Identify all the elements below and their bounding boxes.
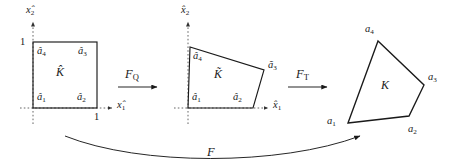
vertex-label-a2-sub: 2 (413, 128, 417, 136)
map-label-fq: FQ (125, 68, 139, 82)
tick-label-x-one: 1 (94, 112, 99, 123)
panel-reference-element (20, 22, 112, 124)
map-label-fq-text: F (125, 67, 133, 81)
map-label-fq-sub: Q (133, 72, 139, 82)
vertex-label-a4: a4 (365, 24, 374, 36)
map-label-ft: FT (296, 68, 309, 82)
axis-label-x1-intermediate: x̂1 (273, 100, 281, 112)
vertex-label-a1: a1 (327, 116, 336, 128)
axis-label-x2-intermediate: x̂2 (181, 5, 189, 17)
vertex-label-a3-sub: 3 (433, 76, 437, 84)
region-label-k-text: K (381, 78, 389, 92)
vertex-label-a2: a2 (408, 124, 417, 136)
vertex-label-a3-hat: â3 (78, 46, 87, 58)
axis-label-x1-intermediate-sub: 1 (278, 104, 282, 112)
axis-label-x2-reference-text: x (26, 5, 31, 16)
map-label-ft-sub: T (304, 72, 309, 82)
vertex-label-a4-hat: â4 (37, 46, 46, 58)
vertex-label-a3: a3 (428, 72, 437, 84)
vertex-label-a2-tilde: â2 (233, 92, 242, 104)
axis-label-x2-intermediate-sub: 2 (186, 9, 190, 17)
vertex-label-a4-hat-sub: 4 (42, 50, 46, 58)
vertex-label-a2-hat: â2 (77, 92, 86, 104)
tick-label-y-one: 1 (20, 37, 25, 48)
axis-label-x2-reference-sub: 2 (31, 9, 35, 17)
vertex-label-a3-hat-sub: 3 (83, 50, 87, 58)
vertex-label-a3-tilde-sub: 3 (273, 64, 277, 72)
region-label-k-hat-text: K (56, 65, 64, 79)
vertex-label-a1-tilde-sub: 1 (197, 96, 201, 104)
fem-mapping-diagram: x̂2 x̂1 1 1 K̂ â1 â2 â3 â4 x̂2 x̂1 K… (0, 0, 453, 168)
vertex-label-a3-tilde: ã3 (268, 60, 277, 72)
region-label-k-tilde: K̃ (214, 68, 222, 80)
axis-label-x1-reference-text: x (117, 100, 122, 111)
region-label-k-hat: K̂ (56, 66, 64, 78)
axis-label-x2-reference: x̂2 (26, 5, 34, 17)
vertex-label-a4-tilde: â4 (193, 51, 202, 63)
vertex-label-a1-hat: â1 (37, 92, 46, 104)
axis-label-x1-reference: x̂1 (117, 100, 125, 112)
vertex-label-a4-sub: 4 (370, 28, 374, 36)
region-label-k-tilde-text: K (214, 67, 222, 81)
vertex-label-a4-tilde-sub: 4 (198, 55, 202, 63)
vertex-label-a1-hat-sub: 1 (42, 96, 46, 104)
vertex-label-a1-sub: 1 (332, 120, 336, 128)
vertex-label-a1-tilde: â1 (192, 92, 201, 104)
map-label-f: F (207, 146, 215, 160)
map-label-f-text: F (207, 145, 215, 159)
region-label-k: K (381, 79, 389, 91)
axis-label-x1-reference-sub: 1 (122, 104, 126, 112)
vertex-label-a2-hat-sub: 2 (82, 96, 86, 104)
vertex-label-a2-tilde-sub: 2 (238, 96, 242, 104)
map-label-ft-text: F (296, 67, 304, 81)
